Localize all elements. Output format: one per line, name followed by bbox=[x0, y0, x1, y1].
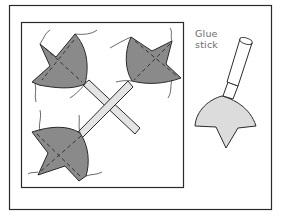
leaf-top-left bbox=[32, 30, 97, 102]
glue-label-line2: stick bbox=[195, 39, 218, 50]
crossed-sticks bbox=[77, 80, 140, 138]
glue-stick bbox=[195, 36, 256, 148]
craft-illustration bbox=[0, 0, 281, 219]
stick-diagonal-up bbox=[77, 81, 133, 138]
leaf-top-right bbox=[110, 28, 181, 98]
glue-stick-label: Glue stick bbox=[195, 28, 218, 50]
glue-label-line1: Glue bbox=[195, 28, 218, 39]
